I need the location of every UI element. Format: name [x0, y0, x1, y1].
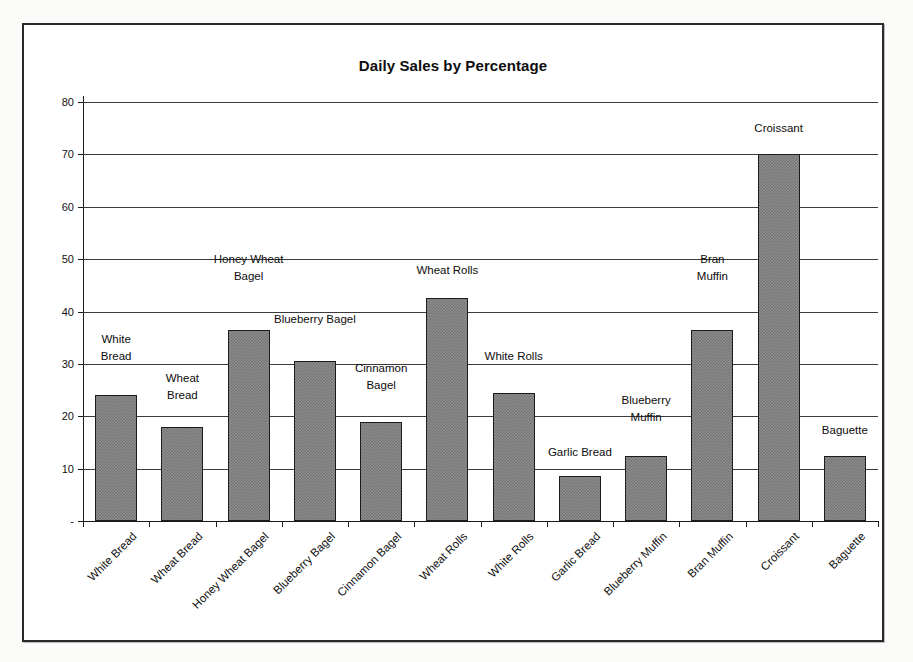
category-axis-label[interactable]: Wheat Bread	[149, 530, 205, 586]
category-axis-label[interactable]: Baguette	[826, 530, 867, 571]
y-tick-mark-30	[78, 364, 83, 365]
category-tick	[679, 521, 680, 527]
category-tick	[746, 521, 747, 527]
bar[interactable]	[625, 456, 667, 521]
category-tick	[414, 521, 415, 527]
y-tick-label-70: 70	[62, 148, 74, 160]
bar[interactable]	[493, 393, 535, 521]
y-tick-label-80: 80	[62, 96, 74, 108]
bar-data-label: Croissant	[754, 120, 803, 137]
y-tick-label-20: 20	[62, 410, 74, 422]
category-tick	[216, 521, 217, 527]
bar-data-label: Wheat Bread	[166, 370, 199, 404]
bar[interactable]	[758, 154, 800, 521]
category-tick	[348, 521, 349, 527]
bar[interactable]	[824, 456, 866, 521]
y-tick-mark-60	[78, 207, 83, 208]
category-tick	[878, 521, 879, 527]
bar-data-label: Blueberry Muffin	[622, 392, 671, 426]
category-axis-label[interactable]: Bran Muffin	[685, 530, 735, 580]
bar[interactable]	[294, 361, 336, 521]
bar-data-label: Garlic Bread	[548, 444, 612, 461]
category-tick	[149, 521, 150, 527]
category-axis-label[interactable]: Honey Wheat Bagel	[190, 530, 271, 611]
y-tick-mark-70	[78, 154, 83, 155]
category-tick	[83, 521, 84, 527]
category-axis-label[interactable]: Wheat Rolls	[418, 530, 470, 582]
bar[interactable]	[161, 427, 203, 521]
category-axis-label[interactable]: White Bread	[85, 530, 138, 583]
category-tick	[547, 521, 548, 527]
category-axis-label[interactable]: White Rolls	[487, 530, 537, 580]
y-tick-label-0: -	[70, 515, 74, 527]
bar-data-label: Honey Wheat Bagel	[214, 251, 284, 285]
category-tick	[481, 521, 482, 527]
category-tick	[812, 521, 813, 527]
category-axis-label[interactable]: Cinnamon Bagel	[335, 530, 404, 599]
bar-data-label: Bran Muffin	[697, 251, 728, 285]
category-axis-label[interactable]: Blueberry Muffin	[601, 530, 669, 598]
chart-title: Daily Sales by Percentage	[24, 57, 882, 74]
scanned-page-background: Daily Sales by Percentage 80706050403020…	[0, 0, 913, 662]
category-tick	[282, 521, 283, 527]
y-tick-label-10: 10	[62, 463, 74, 475]
bar-data-label: Blueberry Bagel	[274, 311, 356, 328]
bar[interactable]	[691, 330, 733, 521]
bar-data-label: Wheat Rolls	[416, 262, 478, 279]
category-axis-label[interactable]: Blueberry Bagel	[271, 530, 337, 596]
y-tick-mark-20	[78, 416, 83, 417]
bar[interactable]	[426, 298, 468, 521]
chart-frame: Daily Sales by Percentage 80706050403020…	[22, 23, 884, 642]
y-tick-mark-40	[78, 312, 83, 313]
bar-data-label: White Rolls	[485, 348, 543, 365]
category-tick	[613, 521, 614, 527]
y-tick-mark-50	[78, 259, 83, 260]
bar-data-label: White Bread	[101, 331, 132, 365]
category-axis-label[interactable]: Croissant	[758, 530, 801, 573]
plot-area: 8070605040302010- White BreadWheat Bread…	[83, 102, 878, 521]
y-tick-label-60: 60	[62, 201, 74, 213]
y-tick-mark-80	[78, 102, 83, 103]
y-tick-mark-10	[78, 469, 83, 470]
y-tick-label-30: 30	[62, 358, 74, 370]
bar[interactable]	[559, 476, 601, 521]
y-tick-label-50: 50	[62, 253, 74, 265]
y-tick-label-40: 40	[62, 306, 74, 318]
category-axis-label[interactable]: Garlic Bread	[549, 530, 603, 584]
bar[interactable]	[228, 330, 270, 521]
gridline-80	[83, 102, 878, 103]
bar[interactable]	[95, 395, 137, 521]
bar[interactable]	[360, 422, 402, 522]
bar-data-label: Baguette	[822, 422, 868, 439]
